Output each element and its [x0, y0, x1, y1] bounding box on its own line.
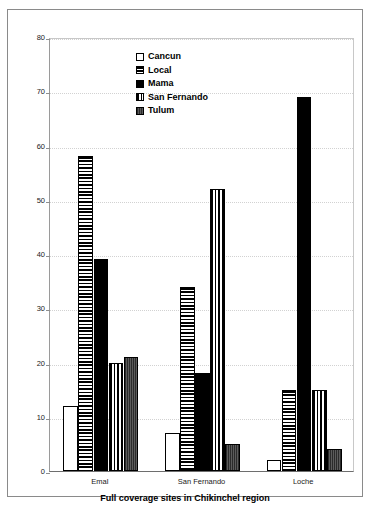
- legend-swatch-tulum: [136, 107, 144, 115]
- chart-title: Full coverage sites in Chikinchel region: [8, 493, 362, 503]
- bar-group: [253, 39, 355, 471]
- bar-san-fernando[interactable]: [210, 189, 225, 471]
- legend-item[interactable]: San Fernando: [136, 91, 246, 105]
- x-axis-tick-label: Loche: [293, 477, 313, 486]
- legend-item-label: Cancun: [148, 52, 181, 61]
- x-axis-tick-label: Emal: [91, 477, 108, 486]
- x-axis-tick-label: San Fernando: [178, 477, 226, 486]
- legend-swatch-cancun: [136, 53, 144, 61]
- bar-mama[interactable]: [94, 259, 109, 471]
- chart-frame: 01020304050607080 CancunLocalMamaSan Fer…: [7, 9, 363, 497]
- y-axis-tick-label: 60: [17, 143, 45, 151]
- legend-item[interactable]: Tulum: [136, 104, 246, 118]
- bar-mama[interactable]: [297, 97, 312, 471]
- chart-legend: CancunLocalMamaSan FernandoTulum: [136, 50, 246, 118]
- legend-item[interactable]: Cancun: [136, 50, 246, 64]
- y-axis-tick-label: 30: [17, 306, 45, 314]
- legend-item-label: Tulum: [148, 106, 174, 115]
- y-axis-tick-label: 20: [17, 360, 45, 368]
- x-axis: EmalSan FernandoLoche: [49, 474, 354, 490]
- y-axis-tick-label: 50: [17, 197, 45, 205]
- y-axis-tick-label: 10: [17, 414, 45, 422]
- y-axis-tick-label: 40: [17, 251, 45, 259]
- legend-item-label: Local: [148, 66, 172, 75]
- y-axis: 01020304050607080: [13, 38, 45, 472]
- legend-swatch-san-fernando: [136, 93, 144, 101]
- bar-cancun[interactable]: [63, 406, 78, 471]
- legend-item[interactable]: Local: [136, 64, 246, 78]
- bar-tulum[interactable]: [327, 449, 342, 471]
- bar-cancun[interactable]: [165, 433, 180, 471]
- legend-item-label: Mama: [148, 79, 174, 88]
- bar-tulum[interactable]: [225, 444, 240, 471]
- bar-san-fernando[interactable]: [109, 363, 124, 472]
- bar-local[interactable]: [78, 156, 93, 471]
- bar-tulum[interactable]: [124, 357, 139, 471]
- bar-local[interactable]: [180, 287, 195, 471]
- legend-item[interactable]: Mama: [136, 77, 246, 91]
- legend-item-label: San Fernando: [148, 93, 208, 102]
- bar-mama[interactable]: [195, 373, 210, 471]
- y-axis-tick-label: 80: [17, 34, 45, 42]
- bar-local[interactable]: [282, 390, 297, 471]
- y-axis-tick-label: 70: [17, 89, 45, 97]
- y-axis-tick-label: 0: [17, 468, 45, 476]
- bar-cancun[interactable]: [267, 460, 282, 471]
- legend-swatch-local: [136, 66, 144, 74]
- bar-san-fernando[interactable]: [312, 390, 327, 471]
- legend-swatch-mama: [136, 80, 144, 88]
